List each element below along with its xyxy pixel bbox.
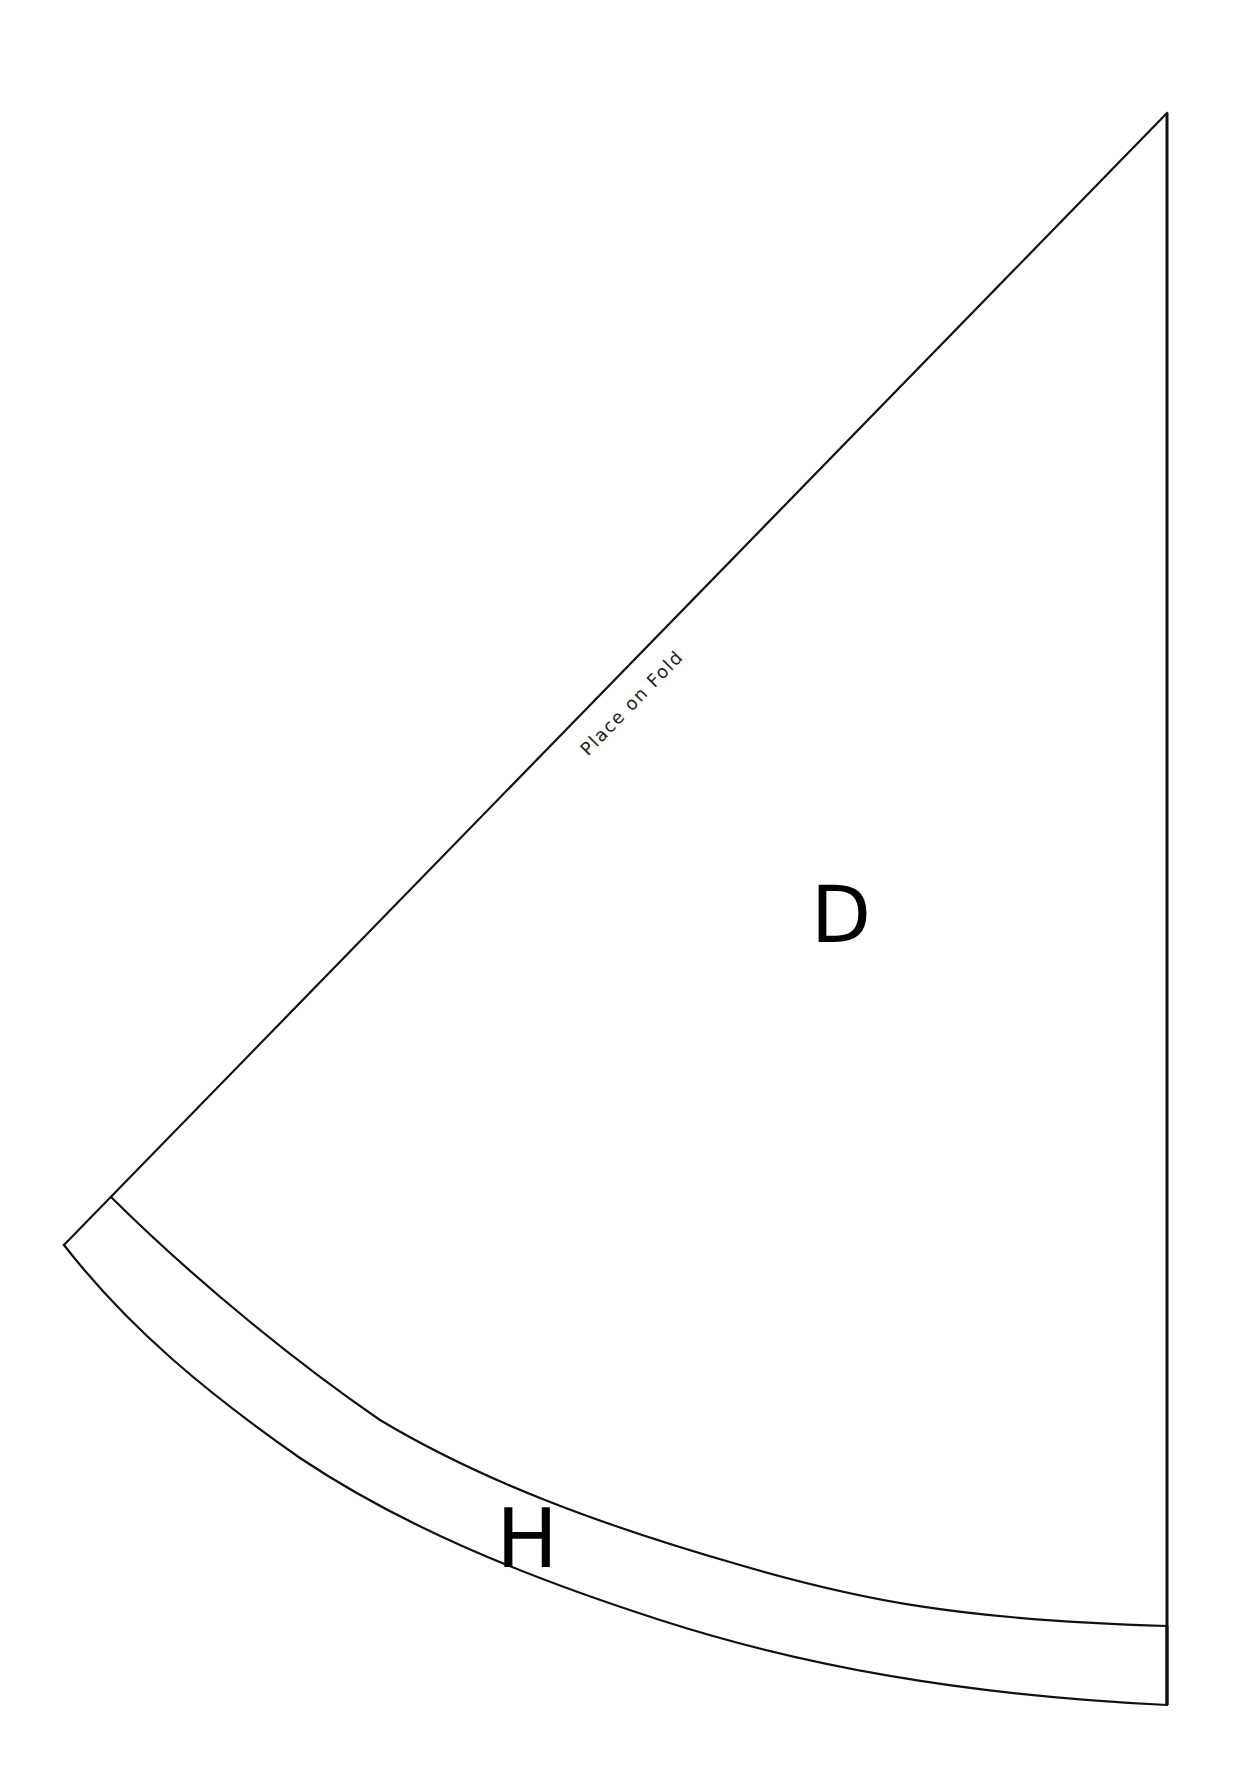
pattern-sheet: D H Place on Fold: [0, 0, 1243, 1790]
hem-outer-curve: [64, 1245, 1167, 1705]
fold-edge-line: [64, 113, 1167, 1245]
hem-seam-curve: [112, 1198, 1167, 1626]
piece-label-h: H: [496, 1491, 558, 1586]
piece-label-d: D: [811, 870, 871, 960]
